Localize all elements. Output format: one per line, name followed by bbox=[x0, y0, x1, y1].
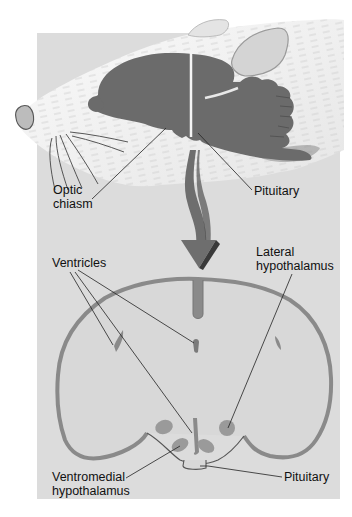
rat-brain-diagram: Optic chiasm Pituitary Ventricles Latera… bbox=[0, 0, 352, 517]
pituitary-bottom-label: Pituitary bbox=[284, 470, 330, 484]
ventricles-label: Ventricles bbox=[52, 256, 106, 270]
lateral-hypothalamus-label-line1: Lateral bbox=[256, 245, 294, 259]
optic-chiasm-label-line2: chiasm bbox=[53, 197, 93, 211]
nose bbox=[16, 106, 34, 130]
optic-chiasm-label-line1: Optic bbox=[53, 183, 82, 197]
lateral-hypothalamus-label-line2: hypothalamus bbox=[256, 259, 334, 273]
ventromedial-label-line2: hypothalamus bbox=[52, 484, 130, 498]
pituitary-top-label: Pituitary bbox=[254, 184, 300, 198]
pituitary-gland bbox=[183, 460, 206, 469]
lateral-hypothalamus-right bbox=[219, 420, 235, 436]
ventromedial-label-line1: Ventromedial bbox=[52, 470, 125, 484]
